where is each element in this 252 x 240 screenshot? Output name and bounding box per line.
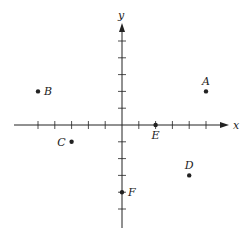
point-dot-icon <box>69 140 73 144</box>
point-label: B <box>43 85 52 98</box>
point-dot-icon <box>204 89 208 93</box>
x-axis-arrow-icon <box>220 122 229 128</box>
point-d: D <box>184 159 194 177</box>
points: ABCDEF <box>36 75 210 199</box>
point-label: D <box>184 159 194 172</box>
x-axis-label: x <box>233 119 240 132</box>
axes <box>14 23 229 228</box>
y-axis-arrow-icon <box>119 23 125 32</box>
coordinate-plane: ABCDEF x y <box>0 0 252 240</box>
y-axis-label: y <box>117 9 125 22</box>
point-label: F <box>127 186 136 199</box>
point-a: A <box>201 75 210 93</box>
point-c: C <box>57 136 74 149</box>
point-e: E <box>151 123 160 142</box>
point-dot-icon <box>187 173 191 177</box>
point-label: E <box>151 129 160 142</box>
point-label: C <box>57 136 66 149</box>
point-dot-icon <box>120 190 124 194</box>
point-label: A <box>201 75 210 88</box>
point-dot-icon <box>36 89 40 93</box>
point-dot-icon <box>153 123 157 127</box>
point-b: B <box>36 85 52 98</box>
